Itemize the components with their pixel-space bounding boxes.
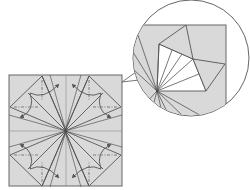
main-square xyxy=(9,75,122,187)
center-point xyxy=(65,130,67,132)
callout-magnifier xyxy=(120,0,249,125)
origami-diagram xyxy=(0,0,250,190)
